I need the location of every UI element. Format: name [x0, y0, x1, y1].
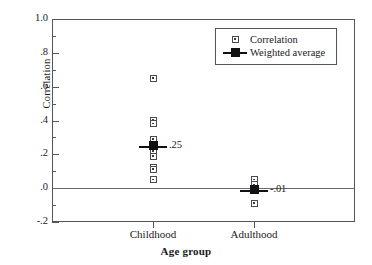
- x-axis-title: Age group: [0, 245, 372, 257]
- x-tick-label-childhood: Childhood: [98, 228, 208, 240]
- correlation-by-age-group-chart: Correlation 1.0.8.6.4.2.0-.2 ChildhoodAd…: [0, 0, 372, 265]
- y-tick-minor: [52, 104, 56, 105]
- correlation-data-point: [150, 176, 157, 183]
- weighted-average-marker: [149, 141, 158, 150]
- zero-reference-line: [53, 188, 354, 189]
- chart-legend: Correlation Weighted average: [215, 28, 337, 65]
- y-tick-minor: [52, 70, 56, 71]
- y-tick-major: [52, 53, 59, 54]
- y-tick-label: .8: [6, 47, 48, 57]
- legend-item-correlation: Correlation: [222, 33, 330, 46]
- y-tick-major: [52, 222, 59, 223]
- y-tick-major: [52, 87, 59, 88]
- y-tick-major: [52, 154, 59, 155]
- y-tick-major: [52, 121, 59, 122]
- y-tick-minor: [52, 137, 56, 138]
- correlation-data-point: [150, 166, 157, 173]
- y-tick-minor: [52, 205, 56, 206]
- y-tick-label: 1.0: [6, 13, 48, 23]
- open-square-marker-icon: [222, 34, 248, 45]
- filled-square-line-marker-icon: [222, 47, 248, 58]
- correlation-data-point: [251, 200, 258, 207]
- correlation-data-point: [150, 153, 157, 160]
- legend-item-weighted-average: Weighted average: [222, 46, 330, 59]
- y-tick-label: .6: [6, 81, 48, 91]
- y-tick-label: -.2: [6, 216, 48, 226]
- weighted-average-value-label: .25: [169, 139, 182, 150]
- y-tick-label: .2: [6, 148, 48, 158]
- y-tick-label: .0: [6, 182, 48, 192]
- legend-label-correlation: Correlation: [248, 34, 298, 45]
- weighted-average-value-label: -.01: [270, 183, 286, 194]
- correlation-data-point: [150, 120, 157, 127]
- weighted-average-marker: [250, 185, 259, 194]
- y-tick-minor: [52, 171, 56, 172]
- x-tick-label-adulthood: Adulthood: [199, 228, 309, 240]
- y-tick-minor: [52, 36, 56, 37]
- y-tick-major: [52, 19, 59, 20]
- legend-label-weighted-average: Weighted average: [248, 47, 325, 58]
- correlation-data-point: [150, 75, 157, 82]
- y-tick-label: .4: [6, 115, 48, 125]
